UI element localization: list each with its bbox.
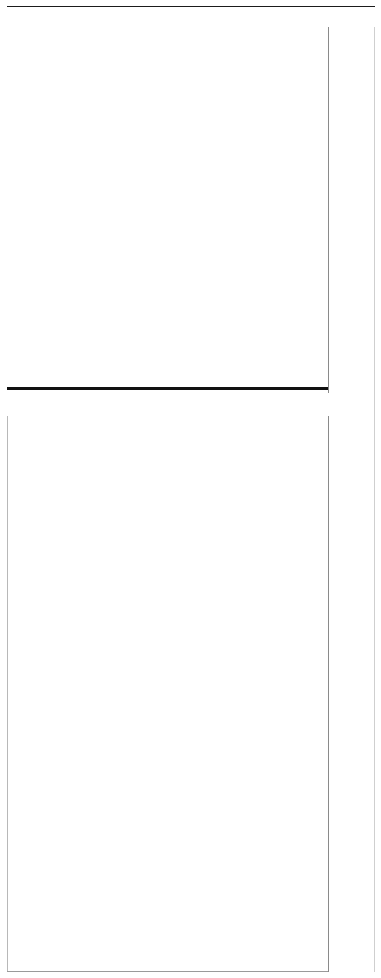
figure-root xyxy=(0,0,381,978)
top-rule xyxy=(7,6,375,7)
top-plot-area xyxy=(7,27,328,390)
shared-x-axis xyxy=(7,392,381,418)
top-axis-spine xyxy=(328,27,329,393)
top-baseline xyxy=(7,387,328,390)
country-of-origin-chart xyxy=(7,416,328,972)
figure-right-frame xyxy=(374,27,375,972)
population-immigration-chart xyxy=(7,27,328,390)
bottom-grid xyxy=(7,416,328,972)
bottom-left-frame xyxy=(7,416,8,972)
bottom-axis-spine xyxy=(328,416,329,972)
bottom-bottom-frame xyxy=(7,971,328,972)
